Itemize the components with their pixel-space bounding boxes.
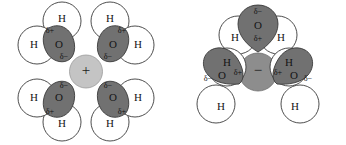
hydrogen-label-top: H: [285, 56, 293, 68]
hydrogen-label-top: H: [223, 56, 231, 68]
hydrogen-label-bottom: H: [58, 117, 66, 129]
hydrogen-label-left: H: [231, 31, 239, 43]
right-water-bottom-left: H H O δ− δ+: [197, 48, 246, 123]
oxygen-label: O: [109, 38, 117, 50]
delta-positive-label: δ+: [274, 68, 283, 77]
cation-hydration-diagram: H H O δ+ δ− H H O δ+ δ− H H O δ+ δ−: [18, 2, 154, 141]
delta-positive-label: δ+: [234, 68, 243, 77]
hydrogen-label-bottom: H: [217, 100, 225, 112]
cation-charge-label: +: [82, 62, 90, 78]
oxygen-label: O: [254, 19, 262, 31]
left-water-bottom-right: H H O δ+ δ−: [91, 79, 154, 141]
delta-negative-label: δ−: [304, 74, 313, 83]
delta-negative-label: δ−: [104, 52, 113, 61]
delta-positive-label: δ+: [118, 107, 127, 116]
oxygen-label: O: [109, 91, 117, 103]
right-water-top: H H O δ− δ+: [219, 5, 297, 54]
delta-negative-label: δ−: [60, 81, 69, 90]
right-water-bottom-right: H H O δ− δ+: [270, 48, 319, 123]
delta-negative-label: δ−: [60, 52, 69, 61]
oxygen-label: O: [290, 69, 298, 81]
delta-positive-label: δ+: [118, 26, 127, 35]
left-water-top-left: H H O δ+ δ−: [18, 2, 81, 64]
delta-negative-label: δ−: [204, 74, 213, 83]
delta-positive-label: δ+: [46, 107, 55, 116]
hydrogen-shell-bottom: [281, 85, 319, 123]
delta-negative-label: δ−: [104, 81, 113, 90]
delta-negative-label: δ−: [254, 7, 263, 16]
oxygen-label: O: [55, 38, 63, 50]
hydrogen-label-right: H: [134, 91, 142, 103]
hydrogen-label-bottom: H: [106, 117, 114, 129]
hydrogen-label-right: H: [134, 38, 142, 50]
oxygen-label: O: [55, 91, 63, 103]
anion-charge-label: −: [254, 62, 262, 78]
hydrogen-shell-bottom: [197, 85, 235, 123]
delta-positive-label: δ+: [46, 26, 55, 35]
hydration-figure: H H O δ+ δ− H H O δ+ δ− H H O δ+ δ−: [0, 0, 346, 145]
hydrogen-label-top: H: [106, 12, 114, 24]
hydrogen-label-top: H: [58, 12, 66, 24]
hydrogen-label-right: H: [277, 31, 285, 43]
left-water-top-right: H H O δ+ δ−: [91, 2, 154, 64]
delta-positive-label: δ+: [254, 34, 263, 43]
anion-hydration-diagram: H H O δ− δ+ H H O δ− δ+ H H O δ− δ+: [197, 5, 319, 123]
hydrogen-label-bottom: H: [291, 100, 299, 112]
hydrogen-label-left: H: [30, 91, 38, 103]
oxygen-label: O: [218, 69, 226, 81]
hydrogen-label-left: H: [30, 38, 38, 50]
left-water-bottom-left: H H O δ+ δ−: [18, 79, 81, 141]
